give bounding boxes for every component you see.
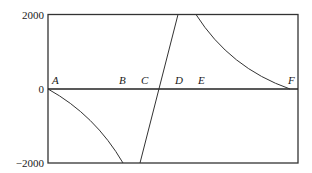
- curve-e-f: [196, 15, 290, 90]
- curve-a-b: [48, 89, 123, 163]
- point-label-e: E: [197, 74, 205, 86]
- point-label-f: F: [287, 74, 295, 86]
- chart: 2000 0 −2000 A B C D E F: [0, 0, 312, 173]
- y-tick-0: 0: [39, 83, 45, 95]
- point-label-c: C: [141, 74, 149, 86]
- point-label-b: B: [119, 74, 126, 86]
- point-label-a: A: [51, 74, 59, 86]
- y-tick-2000: 2000: [22, 9, 45, 21]
- y-tick-neg2000: −2000: [16, 157, 45, 169]
- point-label-d: D: [174, 74, 183, 86]
